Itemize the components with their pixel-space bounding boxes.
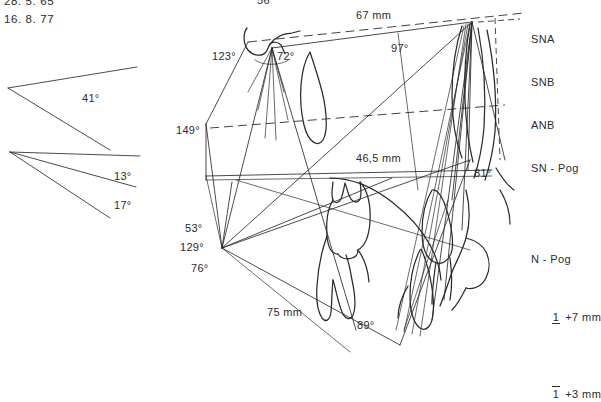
legend-n-pog-header: N - Pog [531,252,601,267]
upper-molar-tooth [317,182,370,320]
angle-label-41: 41° [82,92,100,106]
angle-label-123: 123° [212,50,236,64]
angle-label-149: 149° [176,124,200,138]
occlusal-plane [206,170,492,176]
measure-label-ramus-length: 75 mm [267,306,302,320]
soft-tissue-outline [474,28,514,224]
angle-label-72: 72° [277,50,295,64]
lower-incisor-symbol: 1 [552,386,561,400]
legend-item-anb: ANB [531,118,579,133]
legend-bottom: N - Pog 1+7 mm 1+3 mm [531,224,601,402]
left-angle-diagram [8,67,140,218]
angle-label-53: 53° [185,222,203,236]
sn-plane [272,22,472,48]
legend-lower-incisor-row: 1+3 mm [531,368,601,402]
date-second: 16. 8. 77 [4,12,54,26]
main-tracing-network [206,13,524,352]
angle-label-top-clipped: 56° [257,0,275,8]
angle-label-13: 13° [114,170,132,184]
date-first: 28. 5. 65 [4,0,54,8]
measure-label-sn-length: 67 mm [356,9,391,23]
upper-incisor-symbol: 1 [552,311,561,324]
legend-item-sn-pog: SN - Pog [531,161,579,176]
angle-label-129: 129° [180,241,204,255]
angle-label-81: 81° [474,167,492,181]
legend-item-sna: SNA [531,32,579,47]
lower-incisor-tooth [398,249,433,329]
angle-label-89: 89° [357,319,375,333]
angle-label-76: 76° [191,262,209,276]
legend-top: SNA SNB ANB SN - Pog [531,4,579,204]
wedge-41 [8,67,137,150]
vertical-dashed-line [495,18,500,160]
dashed-reference-lines [210,13,524,160]
legend-upper-incisor-row: 1+7 mm [531,295,601,340]
legend-item-snb: SNB [531,75,579,90]
angle-label-17: 17° [114,199,132,213]
lower-incisor-value: +3 mm [560,388,601,400]
lower-construction-lines [206,176,350,352]
dashed-tick-right [478,19,520,22]
upper-incisor-value: +7 mm [560,311,601,323]
angle-label-97: 97° [391,42,409,56]
nasal-loop-outline [301,52,327,144]
measure-label-mand-body: 46,5 mm [356,152,401,166]
